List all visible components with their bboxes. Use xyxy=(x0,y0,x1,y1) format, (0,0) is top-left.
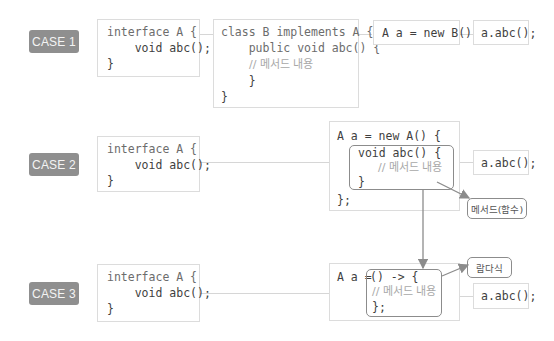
arrow-to-method-label xyxy=(437,182,469,198)
arrows-layer xyxy=(0,0,554,341)
arrow-to-lambda-label xyxy=(442,265,468,276)
